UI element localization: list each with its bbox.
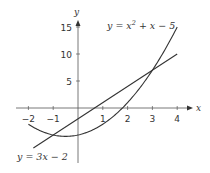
parabola-equation-label: y = x2 + x − 5 bbox=[106, 19, 175, 31]
y-tick-label: 15 bbox=[61, 23, 72, 33]
function-plot: x y −2−1123451015 y = x2 + x − 5 y = 3x … bbox=[0, 0, 210, 173]
curves bbox=[28, 27, 177, 148]
line-equation-label: y = 3x − 2 bbox=[16, 151, 68, 162]
x-tick-label: −1 bbox=[47, 114, 60, 124]
linear-curve bbox=[33, 54, 177, 148]
x-tick-label: 4 bbox=[174, 114, 180, 124]
x-tick-label: −2 bbox=[22, 114, 35, 124]
ticks: −2−1123451015 bbox=[22, 23, 181, 125]
y-tick-label: 5 bbox=[66, 77, 72, 87]
y-tick-label: 10 bbox=[61, 50, 73, 60]
y-axis-arrow-icon bbox=[76, 20, 81, 26]
x-tick-label: 2 bbox=[125, 114, 131, 124]
parabola-label-main: y = x bbox=[106, 20, 132, 31]
x-tick-label: 3 bbox=[150, 114, 156, 124]
x-axis-label: x bbox=[196, 103, 201, 113]
y-axis-label: y bbox=[73, 7, 80, 17]
parabola-label-rest: + x − 5 bbox=[136, 20, 175, 31]
x-axis-arrow-icon bbox=[187, 106, 193, 111]
equation-labels: y = x2 + x − 5 y = 3x − 2 bbox=[16, 19, 175, 162]
